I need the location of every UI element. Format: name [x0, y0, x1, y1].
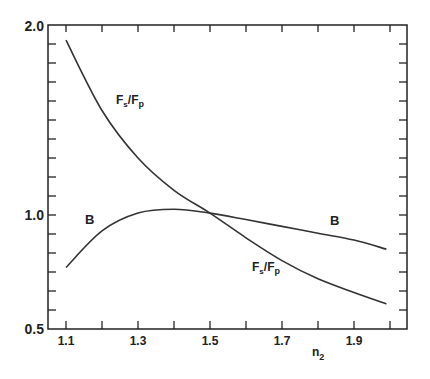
x-tick-label-1-7: 1.7 — [274, 334, 291, 348]
x-axis-label: n2 — [312, 345, 324, 362]
y-tick-label-2-0: 2.0 — [25, 18, 45, 34]
y-tick-label-1-0: 1.0 — [25, 207, 45, 223]
x-tick-label-1-3: 1.3 — [130, 334, 147, 348]
x-tick-label-1-5: 1.5 — [202, 334, 219, 348]
annotation-b-right: B — [330, 213, 339, 228]
y-tick-label-0-5: 0.5 — [25, 321, 45, 337]
annotation-b-left: B — [85, 212, 94, 227]
x-tick-label-1-9: 1.9 — [346, 334, 363, 348]
x-tick-label-1-1: 1.1 — [58, 334, 75, 348]
chart: 2.0 1.0 0.5 1.1 1.3 1.5 1.7 1.9 n2 Fs/Fp… — [0, 0, 430, 379]
annotation-fs-fp-upper: Fs/Fp — [116, 93, 144, 109]
curves — [66, 40, 386, 304]
plot-frame — [48, 25, 407, 329]
annotation-fs-fp-lower: Fs/Fp — [252, 260, 280, 276]
curve-fs-fp — [66, 40, 386, 304]
axis-ticks — [48, 25, 407, 329]
